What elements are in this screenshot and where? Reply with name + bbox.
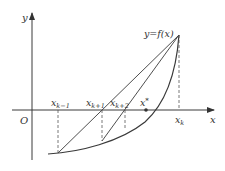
function-curve [48,35,179,154]
secant-line-1 [58,35,179,153]
origin-label: O [20,115,28,126]
secant-method-diagram: y x O y=f(x) xk−1 xk+1 xk+2 x* xk [0,0,225,171]
label-x-k-plus-1: xk+1 [86,97,105,110]
label-x-k-minus-1: xk−1 [51,97,70,110]
label-x-k: xk [175,114,184,127]
label-x-k-plus-2: xk+2 [110,97,129,110]
root-point [144,108,148,112]
label-x-star: x* [140,97,149,108]
y-axis-label: y [21,12,28,23]
x-axis-label: x [210,114,216,125]
curve-label: y=f(x) [143,28,174,39]
